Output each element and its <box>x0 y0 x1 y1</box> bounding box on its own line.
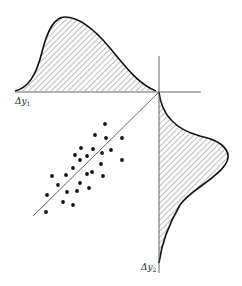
scatter-point <box>44 210 48 214</box>
scatter-point <box>93 133 97 137</box>
scatter-point <box>75 189 79 193</box>
scatter-point <box>78 181 82 185</box>
diagram: Δy1 Δy2 <box>0 0 242 286</box>
scatter-point <box>104 136 108 140</box>
scatter-point <box>50 174 54 178</box>
scatter-points <box>44 122 124 214</box>
scatter-point <box>71 166 75 170</box>
top-marginal-fill <box>15 17 156 91</box>
scatter-point <box>85 172 89 176</box>
scatter-point <box>87 186 91 190</box>
scatter-point <box>65 190 69 194</box>
scatter-point <box>109 148 113 152</box>
x-axis-label: Δy1 <box>14 96 30 107</box>
scatter-point <box>103 122 107 126</box>
scatter-point <box>90 170 94 174</box>
scatter-point <box>120 158 124 162</box>
regression-line <box>33 92 159 216</box>
y-axis-label: Δy2 <box>140 262 157 273</box>
scatter-point <box>71 203 75 207</box>
scatter-point <box>78 158 82 162</box>
scatter-point <box>101 174 105 178</box>
scatter-point <box>64 173 68 177</box>
scatter-point <box>73 153 77 157</box>
scatter-point <box>79 146 83 150</box>
scatter-point <box>85 154 89 158</box>
scatter-point <box>120 136 124 140</box>
scatter-point <box>56 183 60 187</box>
scatter-point <box>99 162 103 166</box>
scatter-point <box>91 147 95 151</box>
scatter-point <box>100 151 104 155</box>
scatter-point <box>45 193 49 197</box>
scatter-point <box>61 200 65 204</box>
